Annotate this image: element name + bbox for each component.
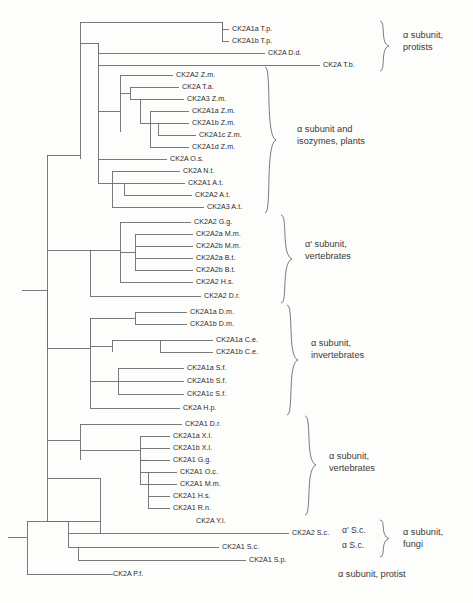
leaf-label: CK2A1b X.l. bbox=[173, 444, 212, 452]
alpha-sc-label: α S.c. bbox=[342, 540, 364, 550]
leaf-label: CK2A1a T.p. bbox=[232, 25, 272, 33]
group-label-line: protists bbox=[403, 42, 443, 54]
group-label-line: isozymes, plants bbox=[297, 136, 365, 148]
alpha-prime-sc-label: α' S.c. bbox=[342, 525, 366, 535]
leaf-label: CK2A1 M.m. bbox=[180, 480, 221, 488]
leaf-label: CK2A1b T.p. bbox=[232, 37, 272, 45]
leaf-label: CK2A1b D.m. bbox=[190, 320, 234, 328]
leaf-label: CK2A Y.l. bbox=[196, 517, 226, 525]
leaf-label: CK2A1a C.e. bbox=[216, 336, 258, 344]
leaf-label: CK2A1 O.c. bbox=[180, 468, 218, 476]
leaf-label: CK2A1a X.l. bbox=[173, 432, 212, 440]
group-label-line: α subunit and bbox=[297, 124, 365, 136]
brace-plants bbox=[263, 66, 279, 214]
group-label-invertebrates: α subunit, invertebrates bbox=[311, 338, 364, 361]
brace-protists bbox=[378, 20, 392, 72]
leaf-label: CK2A2b B.t. bbox=[196, 266, 236, 274]
leaf-label: CK2A O.s. bbox=[170, 155, 204, 163]
leaf-label: CK2A1 A.t. bbox=[188, 179, 223, 187]
leaf-label: CK2A2 Z.m. bbox=[176, 71, 215, 79]
leaf-label: CK2A1 S.p. bbox=[249, 556, 287, 564]
group-label-protists: α subunit, protists bbox=[403, 30, 443, 53]
leaf-label: CK2A1c Z.m. bbox=[199, 131, 242, 139]
leaf-label: CK2A T.b. bbox=[323, 61, 355, 69]
brace-fungi bbox=[378, 519, 392, 558]
group-label-line: invertebrates bbox=[311, 350, 364, 362]
brace-invertebrates bbox=[285, 304, 301, 416]
leaf-label: CK2A2b M.m. bbox=[196, 242, 241, 250]
leaf-label: CK2A H.p. bbox=[183, 404, 217, 412]
group-label-line: α subunit, bbox=[403, 30, 443, 42]
leaf-label: CK2A2 D.r. bbox=[204, 292, 240, 300]
tree-branches bbox=[0, 0, 473, 603]
leaf-label: CK2A2 A.t. bbox=[195, 191, 230, 199]
group-label-line: α' subunit, bbox=[305, 239, 351, 251]
group-label-line: α subunit, bbox=[403, 527, 443, 539]
leaf-label: CK2A D.d. bbox=[268, 49, 302, 57]
group-label-line: α subunit, bbox=[311, 338, 364, 350]
group-label-line: vertebrates bbox=[305, 251, 351, 263]
leaf-label: CK2A1b S.f. bbox=[187, 377, 227, 385]
leaf-label: CK2A3 Z.m. bbox=[187, 95, 226, 103]
leaf-label: CK2A2 H.s. bbox=[196, 278, 234, 286]
leaf-label: CK2A1 R.n. bbox=[173, 504, 211, 512]
group-label-plants: α subunit and isozymes, plants bbox=[297, 124, 365, 147]
leaf-label: CK2A2 G.g. bbox=[194, 218, 232, 226]
group-label-fungi: α subunit, fungi bbox=[403, 527, 443, 550]
group-label-protist: α subunit, protist bbox=[338, 569, 406, 581]
leaf-label: CK2A1 G.g. bbox=[173, 456, 211, 464]
leaf-label: CK2A1a S.f. bbox=[187, 364, 227, 372]
leaf-label: CK2A1a Z.m. bbox=[192, 107, 235, 115]
leaf-label: CK2A1d Z.m. bbox=[192, 143, 235, 151]
leaf-label: CK2A2a B.t. bbox=[196, 254, 236, 262]
leaf-label: CK2A1 H.s. bbox=[173, 492, 211, 500]
brace-alpha-prime-vertebrates bbox=[279, 214, 295, 304]
leaf-label: CK2A2a M.m. bbox=[196, 230, 241, 238]
leaf-label: CK2A3 A.t. bbox=[207, 203, 242, 211]
group-label-line: vertebrates bbox=[329, 463, 375, 475]
leaf-label: CK2A1b Z.m. bbox=[192, 119, 235, 127]
leaf-label: CK2A1c S.f. bbox=[187, 390, 226, 398]
leaf-label: CK2A1b C.e. bbox=[216, 348, 258, 356]
phylogenetic-tree-figure: CK2A1a T.p. CK2A1b T.p. CK2A D.d. CK2A T… bbox=[0, 0, 473, 603]
leaf-label: CK2A2 S.c. bbox=[292, 529, 329, 537]
leaf-label: CK2A1a D.m. bbox=[190, 308, 234, 316]
leaf-label: CK2A N.t. bbox=[183, 167, 215, 175]
group-label-line: α subunit, bbox=[329, 451, 375, 463]
leaf-label: CK2A P.f. bbox=[113, 570, 143, 578]
group-label-line: α subunit, protist bbox=[338, 569, 406, 581]
leaf-label: CK2A T.a. bbox=[182, 83, 214, 91]
leaf-label: CK2A1 S.c. bbox=[222, 543, 259, 551]
group-label-alpha-prime-vertebrates: α' subunit, vertebrates bbox=[305, 239, 351, 262]
brace-vertebrates bbox=[303, 415, 319, 516]
leaf-label: CK2A1 D.r. bbox=[185, 420, 221, 428]
group-label-line: fungi bbox=[403, 539, 443, 551]
group-label-vertebrates: α subunit, vertebrates bbox=[329, 451, 375, 474]
